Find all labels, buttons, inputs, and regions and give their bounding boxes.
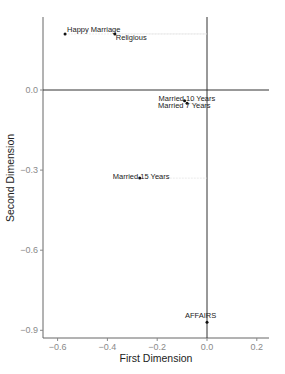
data-point: [206, 321, 209, 324]
x-axis-title: First Dimension: [120, 352, 193, 364]
x-axis-ticks: −0.6−0.4−0.20.00.2: [49, 338, 263, 352]
y-tick-label: −0.9: [20, 325, 38, 335]
x-tick-label: 0.0: [201, 342, 214, 352]
point-label: Happy Marriage: [67, 25, 120, 34]
data-points: Happy MarriageReligiousMarried 10 YearsM…: [64, 25, 217, 324]
x-tick-label: 0.2: [251, 342, 264, 352]
point-label: Married 7 Years: [158, 101, 211, 110]
point-label: Married 15 Years: [113, 172, 170, 181]
biplot-chart: −0.6−0.4−0.20.00.2 0.0−0.3−0.6−0.9 Happy…: [0, 0, 285, 374]
x-tick-label: −0.4: [99, 342, 117, 352]
y-axis-ticks: 0.0−0.3−0.6−0.9: [20, 85, 43, 335]
y-tick-label: −0.6: [20, 245, 38, 255]
x-tick-label: −0.2: [148, 342, 166, 352]
y-axis-title: Second Dimension: [4, 134, 16, 222]
y-tick-label: −0.3: [20, 165, 38, 175]
point-label: Religious: [116, 33, 147, 42]
y-tick-label: 0.0: [25, 85, 38, 95]
point-label: AFFAIRS: [185, 311, 216, 320]
x-tick-label: −0.6: [49, 342, 67, 352]
